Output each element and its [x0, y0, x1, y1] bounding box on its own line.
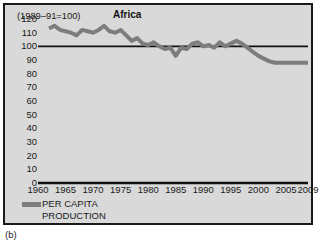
x-tick-label: 1965	[55, 184, 76, 195]
figure-container: (1989–91=100) Africa 1201101009080706050…	[0, 0, 319, 247]
y-axis-labels: 1201101009080706050403020100	[11, 19, 37, 183]
x-tick-label: 1970	[83, 184, 104, 195]
x-tick-label: 1990	[193, 184, 214, 195]
y-tick-label: 50	[26, 110, 37, 120]
y-tick-label: 60	[26, 96, 37, 106]
y-tick-label: 10	[26, 164, 37, 174]
y-tick-label: 70	[26, 82, 37, 92]
x-tick-label: 1960	[27, 184, 48, 195]
y-tick-label: 20	[26, 151, 37, 161]
x-tick-label: 2000	[248, 184, 269, 195]
plot-area	[38, 19, 308, 183]
x-tick-label: 2009	[297, 184, 318, 195]
y-tick-label: 110	[22, 28, 37, 38]
y-tick-label: 90	[26, 55, 37, 65]
y-tick-label: 80	[26, 69, 37, 79]
x-tick-label: 1985	[165, 184, 186, 195]
chart-panel: (1989–91=100) Africa 1201101009080706050…	[3, 3, 313, 225]
y-tick-label: 120	[21, 14, 37, 24]
x-tick-label: 1975	[110, 184, 131, 195]
chart-legend: PER CAPITA PRODUCTION	[22, 198, 106, 221]
x-tick-label: 1995	[220, 184, 241, 195]
legend-swatch-per-capita-production	[22, 202, 41, 207]
y-tick-label: 40	[26, 123, 37, 133]
legend-label-per-capita-production: PER CAPITA PRODUCTION	[42, 198, 106, 221]
data-series-line	[49, 26, 308, 63]
y-tick-label: 100	[21, 41, 37, 51]
x-tick-label: 2005	[275, 184, 296, 195]
x-tick-label: 1980	[138, 184, 159, 195]
y-tick-label: 30	[26, 137, 37, 147]
figure-caption: (b)	[5, 229, 17, 240]
x-axis-labels: 1960196519701975198019851990199520002005…	[8, 184, 312, 198]
chart-plot-svg	[38, 19, 308, 183]
